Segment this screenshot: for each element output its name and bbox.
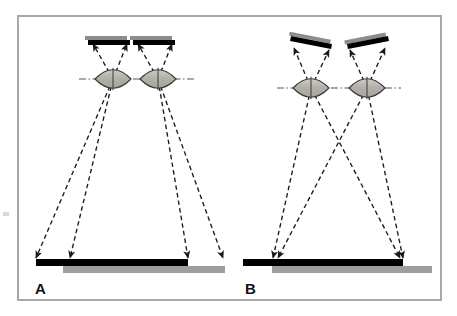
edge-artifact-mark bbox=[3, 212, 9, 216]
sensor-a-right-black-plate bbox=[133, 40, 175, 45]
object-bar-a-black bbox=[36, 259, 188, 266]
object-bar-a-gray bbox=[63, 266, 225, 273]
object-bar-b-black bbox=[243, 259, 403, 266]
panel-label-b: B bbox=[245, 280, 256, 297]
object-bar-b-gray bbox=[272, 266, 432, 273]
sensor-a-left-black-plate bbox=[88, 40, 130, 45]
sensor-a-left bbox=[85, 36, 130, 45]
sensor-a-right bbox=[130, 36, 175, 45]
panel-label-a: A bbox=[35, 280, 46, 297]
optical-diagram: A B bbox=[0, 0, 457, 316]
sensor-a-left-gray-backing bbox=[85, 36, 127, 40]
figure-root: A B bbox=[0, 0, 457, 316]
sensor-a-right-gray-backing bbox=[130, 36, 172, 40]
